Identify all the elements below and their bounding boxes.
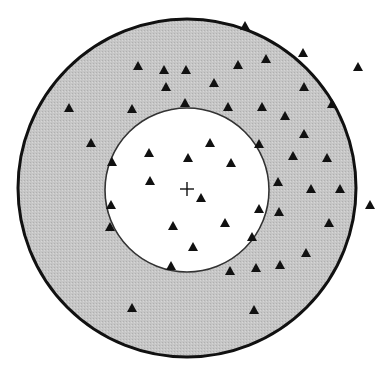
triangle-marker-icon xyxy=(353,62,363,71)
diagram-canvas xyxy=(0,0,388,372)
triangle-marker-icon xyxy=(298,48,308,57)
triangle-marker-icon xyxy=(365,200,375,209)
concentric-circles-diagram xyxy=(0,0,388,372)
triangle-marker-icon xyxy=(240,21,250,30)
